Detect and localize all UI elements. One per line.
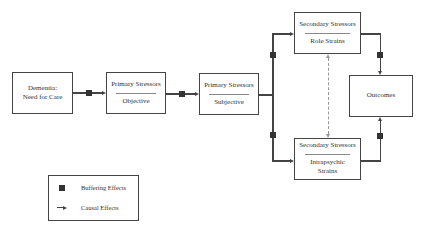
divider (305, 154, 351, 155)
edge-to-role-strains (272, 33, 290, 35)
node-title: Primary Stressors (111, 80, 161, 89)
arrowhead-icon (195, 92, 199, 96)
edge-intrapsychic-outcomes-h (361, 160, 381, 162)
node-dementia-line2: Need for Care (23, 93, 63, 102)
divider (209, 94, 250, 95)
node-dementia-line1: Dementia: (28, 84, 57, 93)
buffer-icon (59, 185, 65, 191)
divider (305, 33, 351, 34)
legend-label-causal: Causal Effects (81, 204, 119, 211)
arrow-icon (57, 206, 71, 210)
buffer-icon (270, 132, 276, 138)
node-outcomes: Outcomes (349, 75, 413, 117)
buffer-icon (377, 133, 383, 139)
node-subtitle: Objective (122, 97, 149, 106)
edge-role-outcomes-h (361, 33, 381, 35)
node-title: Secondary Stressors (299, 141, 356, 150)
node-secondary-intrapsychic: Secondary Stressors Intrapsychic Strains (294, 138, 361, 180)
legend: Buffering Effects Causal Effects (48, 175, 139, 221)
legend-item-causal: Causal Effects (57, 204, 119, 211)
buffer-icon (86, 90, 92, 96)
edge-intrapsychic-outcomes-v (380, 121, 382, 161)
arrowhead-icon (378, 117, 382, 121)
edge-subjective-branch (259, 94, 273, 96)
node-dementia: Dementia: Need for Care (12, 72, 73, 114)
legend-item-buffering: Buffering Effects (57, 184, 126, 191)
arrowhead-icon (326, 54, 330, 58)
node-title: Primary Stressors (204, 81, 254, 90)
node-subtitle: Subjective (214, 98, 244, 107)
buffer-icon (270, 52, 276, 58)
node-primary-subjective: Primary Stressors Subjective (199, 73, 259, 115)
buffer-icon (377, 52, 383, 58)
divider (116, 93, 157, 94)
node-subtitle: Role Strains (310, 37, 344, 46)
node-secondary-role: Secondary Stressors Role Strains (294, 12, 361, 54)
legend-label-buffering: Buffering Effects (81, 184, 126, 191)
node-subtitle-line1: Intrapsychic (310, 158, 345, 167)
node-label: Outcomes (367, 91, 395, 100)
edge-role-intrapsychic-dashed (328, 58, 329, 134)
arrowhead-icon (290, 32, 294, 36)
node-title: Secondary Stressors (299, 20, 356, 29)
node-primary-objective: Primary Stressors Objective (106, 72, 166, 114)
arrowhead-icon (290, 159, 294, 163)
buffer-icon (179, 91, 185, 97)
arrowhead-icon (326, 134, 330, 138)
arrowhead-icon (378, 71, 382, 75)
edge-to-intrapsychic (272, 160, 290, 162)
arrowhead-icon (102, 91, 106, 95)
node-subtitle-line2: Strains (318, 167, 337, 176)
